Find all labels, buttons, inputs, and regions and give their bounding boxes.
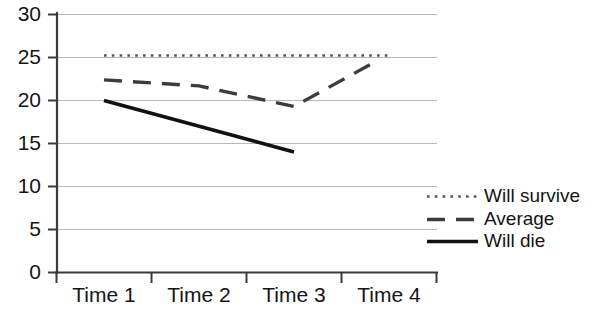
y-tick-label-30: 30 xyxy=(18,2,41,25)
x-tick-label-time-2: Time 2 xyxy=(167,283,230,306)
y-tick-label-0: 0 xyxy=(29,260,41,283)
chart-background xyxy=(0,0,599,326)
line-chart: 30 25 20 15 10 5 0 Time 1 Time 2 Time 3 … xyxy=(0,0,599,326)
x-tick-label-time-4: Time 4 xyxy=(357,283,421,306)
y-tick-label-5: 5 xyxy=(29,217,41,240)
x-tick-label-time-3: Time 3 xyxy=(262,283,325,306)
legend-label-will-die: Will die xyxy=(484,230,545,251)
legend-label-average: Average xyxy=(484,208,554,229)
x-tick-label-time-1: Time 1 xyxy=(72,283,135,306)
y-tick-label-20: 20 xyxy=(18,88,41,111)
y-tick-label-10: 10 xyxy=(18,174,41,197)
chart-figure: 30 25 20 15 10 5 0 Time 1 Time 2 Time 3 … xyxy=(0,0,599,326)
legend-label-will-survive: Will survive xyxy=(484,185,580,206)
y-tick-label-25: 25 xyxy=(18,45,41,68)
y-tick-label-15: 15 xyxy=(18,131,41,154)
